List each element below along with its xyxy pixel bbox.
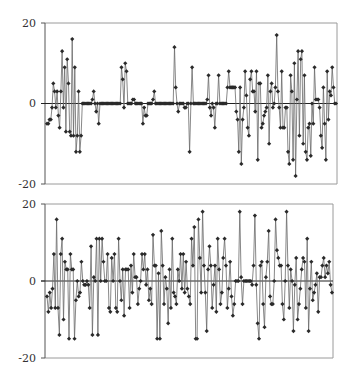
diamond-marker-icon [183,290,187,294]
diamond-marker-icon [70,37,74,41]
diamond-marker-icon [128,306,132,310]
diamond-marker-icon [288,73,292,77]
diamond-marker-icon [307,122,311,126]
diamond-marker-icon [112,252,116,256]
diamond-marker-icon [184,260,188,264]
diamond-marker-icon [268,294,272,298]
diamond-marker-icon [276,256,280,260]
diamond-marker-icon [317,105,321,109]
diamond-marker-icon [308,287,312,291]
diamond-marker-icon [52,252,56,256]
diamond-marker-icon [234,109,238,113]
diamond-marker-icon [116,237,120,241]
diamond-marker-icon [302,73,306,77]
series-line [47,212,332,339]
y-tick-label-0: 0 [29,275,36,288]
diamond-marker-icon [147,298,151,302]
diamond-marker-icon [293,283,297,287]
diamond-marker-icon [170,237,174,241]
diamond-marker-icon [137,287,141,291]
diamond-marker-icon [63,260,67,264]
diamond-marker-icon [77,294,81,298]
diamond-marker-icon [266,73,270,77]
diamond-marker-icon [330,65,334,69]
diamond-marker-icon [150,302,154,306]
diamond-marker-icon [65,57,69,61]
diamond-marker-icon [327,260,331,264]
diamond-marker-icon [50,287,54,291]
diamond-marker-icon [223,237,227,241]
diamond-marker-icon [172,290,176,294]
diamond-marker-icon [206,73,210,77]
diamond-marker-icon [214,310,218,314]
diamond-marker-icon [239,275,243,279]
diamond-marker-icon [101,260,105,264]
diamond-marker-icon [60,49,64,53]
diamond-marker-icon [207,244,211,248]
diamond-marker-icon [141,267,145,271]
diamond-marker-icon [312,65,316,69]
diamond-marker-icon [111,279,115,283]
y-tick-label-20: 20 [22,198,36,211]
diamond-marker-icon [250,283,254,287]
diamond-marker-icon [55,89,59,93]
diamond-marker-icon [309,260,313,264]
diamond-marker-icon [209,264,213,268]
diamond-marker-icon [59,89,63,93]
diamond-marker-icon [267,142,271,146]
y-tick-label-neg20: -20 [18,352,36,365]
diamond-marker-icon [256,158,260,162]
diamond-marker-icon [151,233,155,237]
diamond-marker-icon [86,283,90,287]
diamond-marker-icon [68,252,72,256]
diamond-marker-icon [75,279,79,283]
diamond-marker-icon [190,65,194,69]
y-tick-label-20: 20 [22,17,36,30]
diamond-marker-icon [158,337,162,341]
diamond-marker-icon [322,256,326,260]
diamond-marker-icon [163,275,167,279]
diamond-marker-icon [64,130,68,134]
diamond-marker-icon [217,73,221,77]
diamond-marker-icon [100,237,104,241]
diamond-marker-icon [262,113,266,117]
diamond-marker-icon [152,89,156,93]
diamond-marker-icon [225,306,229,310]
diamond-marker-icon [205,329,209,333]
diamond-marker-icon [237,150,241,154]
diamond-marker-icon [60,237,64,241]
diamond-marker-icon [54,105,58,109]
diamond-marker-icon [196,217,200,221]
data-series [45,33,338,178]
diamond-marker-icon [151,97,155,101]
diamond-marker-icon [122,314,126,318]
diamond-marker-icon [227,69,231,73]
diamond-marker-icon [270,81,274,85]
diamond-marker-icon [51,81,55,85]
diamond-marker-icon [228,260,232,264]
diamond-marker-icon [50,105,54,109]
diamond-marker-icon [316,310,320,314]
diamond-marker-icon [139,279,143,283]
diamond-marker-icon [72,337,76,341]
series-line [47,35,336,176]
diamond-marker-icon [57,333,61,337]
diamond-marker-icon [74,298,78,302]
diamond-marker-icon [142,105,146,109]
diamond-marker-icon [105,252,109,256]
diamond-marker-icon [115,310,119,314]
diamond-marker-icon [188,302,192,306]
diamond-marker-icon [263,109,267,113]
diamond-marker-icon [74,150,78,154]
diamond-marker-icon [331,85,335,89]
diamond-marker-icon [221,256,225,260]
diamond-marker-icon [118,279,122,283]
diamond-marker-icon [295,97,299,101]
y-tick-label-0: 0 [29,97,36,110]
diamond-marker-icon [260,260,264,264]
diamond-marker-icon [185,287,189,291]
diamond-marker-icon [132,252,136,256]
diamond-marker-icon [45,294,49,298]
diamond-marker-icon [301,142,305,146]
diamond-marker-icon [276,89,280,93]
